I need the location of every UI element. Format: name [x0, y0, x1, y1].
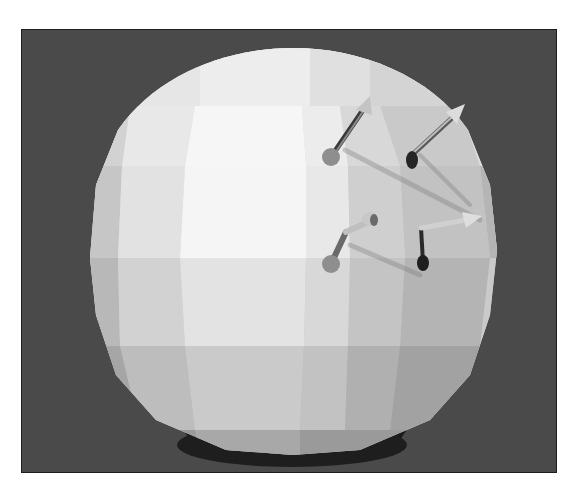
sphere-render	[0, 0, 579, 490]
sphere-body	[80, 40, 510, 460]
